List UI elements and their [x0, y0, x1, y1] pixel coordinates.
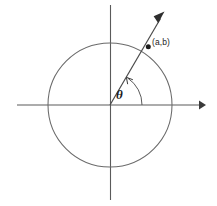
angle-arc [126, 77, 142, 105]
unit-circle-diagram: (a,b) θ [0, 0, 217, 206]
point-marker-ab [146, 44, 151, 49]
terminal-ray-arrowhead-icon [154, 12, 165, 24]
diagram-canvas [0, 0, 217, 206]
angle-arc-path [128, 78, 142, 105]
angle-label-theta: θ [116, 88, 123, 101]
point-label-ab: (a,b) [152, 38, 170, 47]
x-axis-arrowhead-icon [199, 101, 206, 110]
